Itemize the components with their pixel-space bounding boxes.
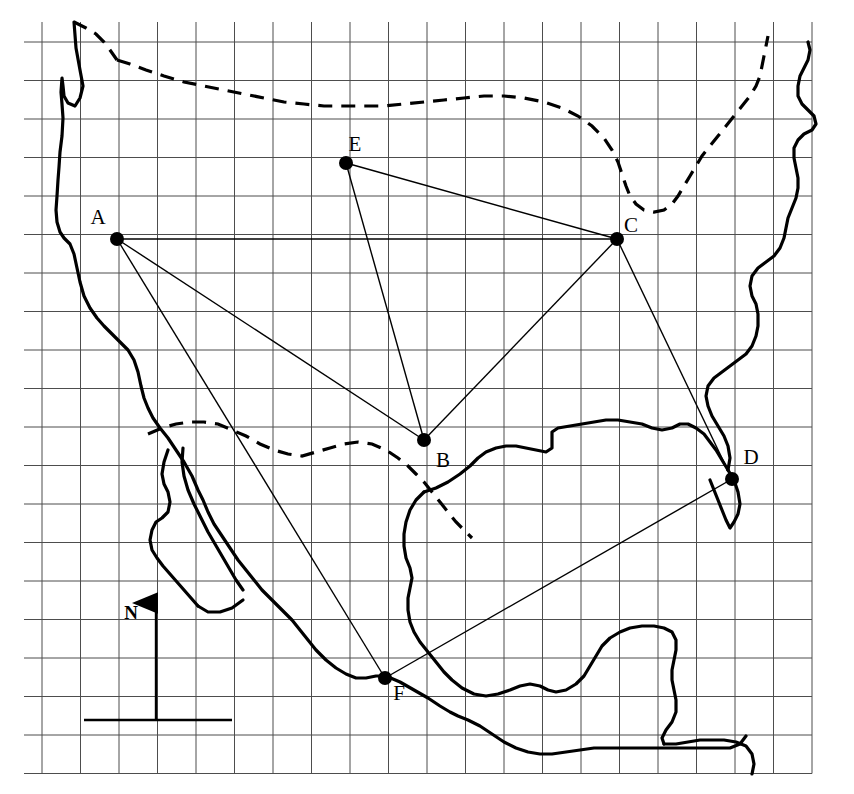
map-point-E[interactable] [339,156,353,170]
connection-line-B-E [346,163,424,440]
connection-line-B-C [424,239,617,440]
connection-line-D-F [385,479,732,678]
point-label-A: A [90,205,106,229]
point-label-B: B [436,448,450,472]
map-point-A[interactable] [110,232,124,246]
coastline-gulf-coast [424,420,728,492]
point-label-E: E [349,132,362,156]
point-label-F: F [393,681,405,705]
border-border-north [117,36,768,212]
coastline-group [56,22,816,774]
north-arrow-label: N [124,602,138,623]
point-label-D: D [743,445,758,469]
coastline-yucatan [664,740,754,774]
map-point-B[interactable] [417,433,431,447]
coastline-gulf-coast-west [404,492,676,744]
border-group [74,22,768,538]
connection-line-A-B [117,239,424,440]
coastline-baja-tip [198,600,243,612]
connection-line-C-E [346,163,617,239]
map-canvas: ABCDEF N [0,0,854,794]
map-point-C[interactable] [610,232,624,246]
map-point-F[interactable] [378,671,392,685]
map-figure: ABCDEF N [0,0,854,794]
point-label-C: C [624,213,638,237]
connection-lines-group [117,163,732,678]
map-point-D[interactable] [725,472,739,486]
coastline-east-coast [706,42,816,470]
connection-line-C-D [617,239,732,479]
